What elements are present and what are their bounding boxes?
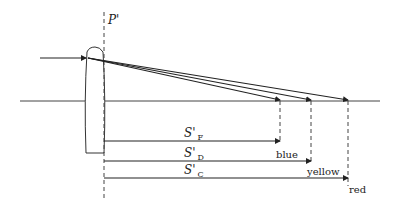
ray-blue [88,58,280,100]
lens [85,47,105,153]
distance-label-d: S'D [184,146,204,162]
color-label-blue: blue [276,149,298,160]
chromatic-aberration-diagram: P' S'F S'D S'C blue yellow red [0,0,396,210]
distance-label-f: S'F [184,126,204,142]
ray-red [88,58,348,100]
distance-label-c: S'C [184,163,204,179]
ray-yellow [88,58,311,100]
color-label-red: red [349,184,367,195]
color-label-yellow: yellow [306,166,340,177]
principal-plane-label: P' [107,13,119,27]
